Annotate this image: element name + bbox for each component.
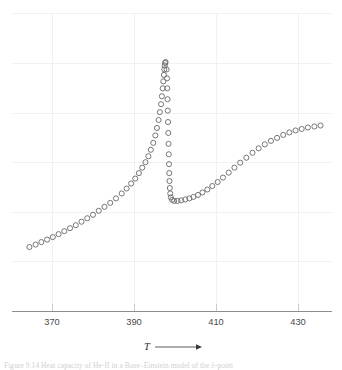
data-point	[205, 187, 210, 192]
data-point	[50, 235, 55, 240]
data-point	[159, 102, 164, 107]
data-point	[39, 240, 44, 245]
data-point	[79, 219, 84, 224]
figure-container: 370390410430 T Figure 9.14 Heat capacity…	[0, 0, 342, 370]
data-point	[85, 216, 90, 221]
data-point	[33, 242, 38, 247]
data-point	[133, 176, 138, 181]
data-point	[129, 181, 134, 186]
data-point	[154, 125, 159, 130]
x-tick-label: 430	[290, 317, 306, 327]
data-point	[140, 165, 145, 170]
data-point	[200, 190, 205, 195]
data-point	[210, 183, 215, 188]
data-point	[299, 126, 304, 131]
data-point	[165, 108, 170, 113]
data-point-markers	[27, 59, 323, 249]
data-point	[108, 200, 113, 205]
data-point	[293, 128, 298, 133]
data-point	[167, 179, 172, 184]
data-point	[67, 226, 72, 231]
data-point	[287, 130, 292, 135]
data-point	[220, 175, 225, 180]
data-point	[166, 141, 171, 146]
data-point	[244, 155, 249, 160]
x-tick-label: 410	[208, 317, 224, 327]
x-axis-title-group: T	[144, 341, 202, 352]
data-point	[136, 171, 141, 176]
x-axis-tick-labels: 370390410430	[44, 317, 306, 327]
data-point	[165, 119, 170, 124]
horizontal-gridlines	[12, 14, 332, 262]
data-point	[146, 154, 151, 159]
data-point	[318, 123, 323, 128]
data-point	[166, 130, 171, 135]
data-point	[119, 191, 124, 196]
data-point	[305, 125, 310, 130]
axis-tick-marks	[52, 304, 298, 311]
data-point	[73, 223, 78, 228]
data-point	[27, 244, 32, 249]
data-point	[62, 229, 67, 234]
data-point	[148, 147, 153, 152]
data-point	[232, 165, 237, 170]
data-point	[165, 97, 170, 102]
data-point	[156, 117, 161, 122]
data-point	[262, 142, 267, 147]
data-point	[164, 76, 169, 81]
data-point	[124, 186, 129, 191]
data-point	[312, 124, 317, 129]
data-point	[281, 132, 286, 137]
data-point	[167, 171, 172, 176]
data-point	[159, 94, 164, 99]
data-point	[56, 232, 61, 237]
data-point	[45, 237, 50, 242]
data-point	[157, 110, 162, 115]
data-point	[275, 135, 280, 140]
data-point	[153, 133, 158, 138]
figure-caption: Figure 9.14 Heat capacity of He-II in a …	[0, 362, 342, 370]
scatter-plot: 370390410430 T	[0, 0, 342, 370]
x-axis-arrow-head	[196, 344, 202, 350]
data-point	[226, 170, 231, 175]
figure-caption-strip: Figure 9.14 Heat capacity of He-II in a …	[0, 362, 342, 370]
data-point	[268, 138, 273, 143]
data-point	[166, 152, 171, 157]
data-point	[167, 185, 172, 190]
x-axis-title: T	[144, 341, 151, 352]
data-point	[102, 204, 107, 209]
data-point	[256, 146, 261, 151]
data-point	[250, 150, 255, 155]
x-tick-label: 370	[44, 317, 60, 327]
data-point	[113, 196, 118, 201]
x-tick-label: 390	[126, 317, 142, 327]
data-point	[151, 140, 156, 145]
data-point	[90, 212, 95, 217]
